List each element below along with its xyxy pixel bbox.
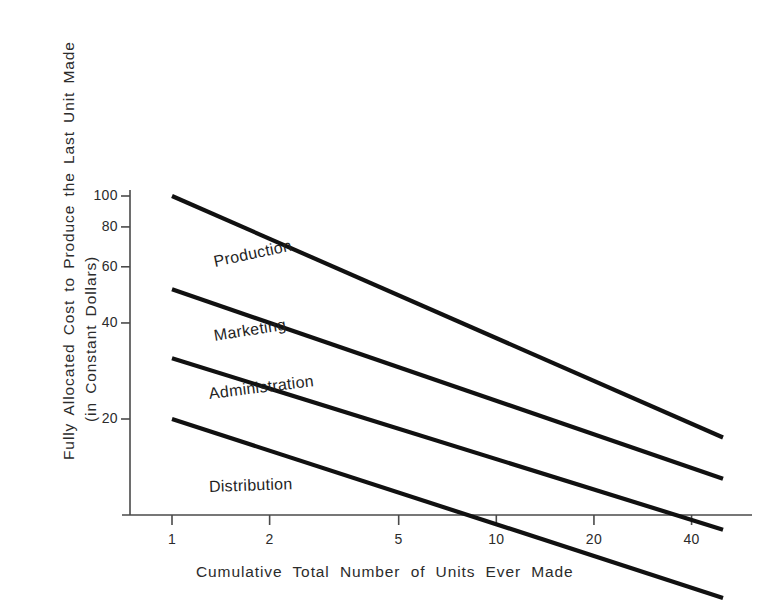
x-axis-label: Cumulative Total Number of Units Ever Ma…	[196, 563, 574, 581]
y-tick-label-40: 40	[50, 314, 118, 330]
y-tick-label-20: 20	[50, 410, 118, 426]
y-tick-label-60: 60	[50, 258, 118, 274]
x-tick-label-10: 10	[466, 531, 526, 547]
x-tick-label-20: 20	[564, 531, 624, 547]
x-tick-label-1: 1	[142, 531, 202, 547]
x-tick-label-5: 5	[369, 531, 429, 547]
chart-plot-area	[0, 0, 763, 613]
x-tick-label-40: 40	[662, 531, 722, 547]
axis-lines	[122, 190, 752, 515]
axis-ticks	[121, 196, 692, 525]
x-tick-label-2: 2	[240, 531, 300, 547]
y-tick-label-80: 80	[50, 218, 118, 234]
series-label-distribution: Distribution	[209, 476, 293, 497]
chart-figure: Fully Allocated Cost to Produce the Last…	[0, 0, 763, 613]
y-tick-label-100: 100	[50, 187, 118, 203]
